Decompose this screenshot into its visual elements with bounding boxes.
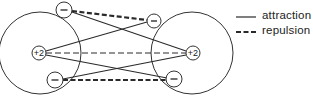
right-electron-bottom xyxy=(166,71,182,87)
right-electron-top xyxy=(147,14,161,28)
legend-attraction-label: attraction xyxy=(262,9,311,21)
left-electron-top xyxy=(56,2,72,18)
left-nucleus-charge: +2 xyxy=(34,48,44,58)
right-nucleus-charge: +2 xyxy=(188,48,198,58)
right-nucleus: +2 xyxy=(186,46,200,60)
legend-repulsion-label: repulsion xyxy=(262,24,310,36)
left-nucleus: +2 xyxy=(32,46,46,60)
diagram-canvas: +2 +2 attraction repulsion xyxy=(0,0,313,97)
left-electron-bottom xyxy=(47,72,63,88)
